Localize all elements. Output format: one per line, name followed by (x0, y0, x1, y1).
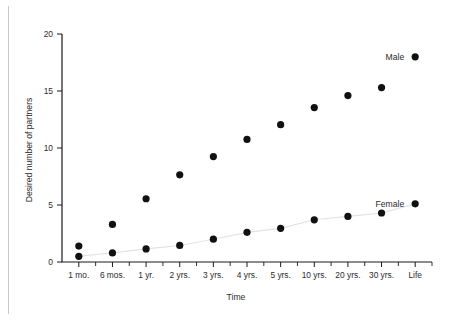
data-point-male (344, 92, 351, 99)
data-point-male (75, 242, 82, 249)
data-point-female (210, 236, 217, 243)
data-point-male (378, 84, 385, 91)
data-point-male (109, 221, 116, 228)
data-point-female (378, 209, 385, 216)
data-point-female (75, 253, 82, 260)
x-tick-label: Life (408, 270, 422, 280)
y-tick-label: 15 (44, 86, 54, 96)
data-point-female (243, 229, 250, 236)
x-axis-title: Time (227, 292, 246, 302)
data-point-female (142, 245, 149, 252)
series-label-male: Male (386, 52, 405, 62)
data-point-female (109, 249, 116, 256)
series-inline-labels: MaleFemale (376, 52, 405, 209)
x-tick-label: 3 yrs. (203, 270, 223, 280)
y-axis-title: Desired number of partners (24, 98, 34, 203)
x-tick-label: 2 yrs. (169, 270, 189, 280)
x-tick-label: 4 yrs. (237, 270, 257, 280)
data-point-male (243, 136, 250, 143)
x-axis-tick-labels: 1 mo.6 mos.1 yr.2 yrs.3 yrs.4 yrs.5 yrs.… (68, 270, 422, 280)
x-tick-label: 10 yrs. (302, 270, 327, 280)
data-point-male (412, 53, 419, 60)
axes-group (62, 34, 432, 262)
scatter-plot-svg: 05101520 1 mo.6 mos.1 yr.2 yrs.3 yrs.4 y… (0, 0, 450, 320)
data-point-male (176, 171, 183, 178)
x-tick-label: 30 yrs. (369, 270, 394, 280)
data-point-female (412, 200, 419, 207)
data-point-female (176, 242, 183, 249)
y-axis-tick-labels: 05101520 (44, 29, 54, 267)
data-point-male (277, 121, 284, 128)
x-tick-label: 6 mos. (100, 270, 125, 280)
y-tick-label: 5 (48, 200, 53, 210)
x-tick-label: 20 yrs. (335, 270, 360, 280)
x-tick-label: 1 mo. (68, 270, 89, 280)
y-tick-label: 0 (48, 257, 53, 267)
data-points (75, 53, 419, 260)
y-tick-label: 10 (44, 143, 54, 153)
data-point-female (277, 225, 284, 232)
x-axis-ticks (79, 262, 432, 267)
chart-figure: 05101520 1 mo.6 mos.1 yr.2 yrs.3 yrs.4 y… (0, 0, 450, 320)
series-label-female: Female (376, 199, 405, 209)
data-point-male (210, 153, 217, 160)
data-point-female (344, 213, 351, 220)
y-axis-ticks (57, 34, 62, 262)
data-point-male (142, 195, 149, 202)
x-tick-label: 1 yr. (138, 270, 154, 280)
axis-lines (62, 34, 432, 262)
data-point-female (311, 216, 318, 223)
data-point-male (311, 104, 318, 111)
x-tick-label: 5 yrs. (270, 270, 290, 280)
y-tick-label: 20 (44, 29, 54, 39)
